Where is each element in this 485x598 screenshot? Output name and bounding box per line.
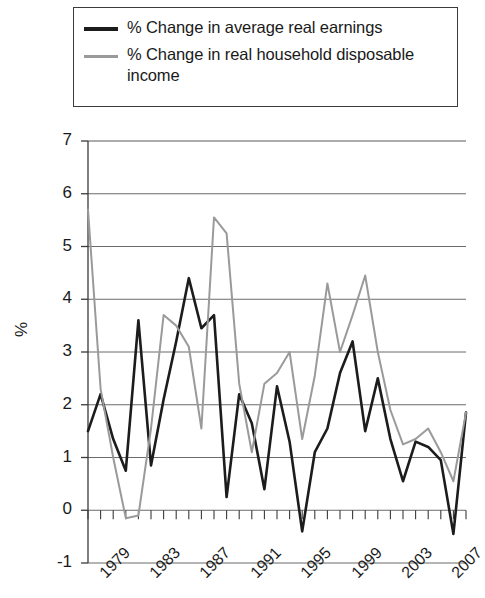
y-tick-label: 0 xyxy=(38,499,72,519)
chart-svg xyxy=(0,0,485,598)
series-line-income xyxy=(88,210,466,519)
y-tick-label: -1 xyxy=(38,552,72,572)
y-tick-label: 3 xyxy=(38,341,72,361)
y-tick-label: 2 xyxy=(38,394,72,414)
series-line-earnings xyxy=(88,278,466,534)
y-tick-label: 1 xyxy=(38,447,72,467)
y-tick-label: 7 xyxy=(38,130,72,150)
chart-page: % Change in average real earnings % Chan… xyxy=(0,0,485,598)
plot-area xyxy=(0,0,485,598)
y-tick-label: 5 xyxy=(38,236,72,256)
y-tick-label: 6 xyxy=(38,183,72,203)
y-tick-label: 4 xyxy=(38,288,72,308)
